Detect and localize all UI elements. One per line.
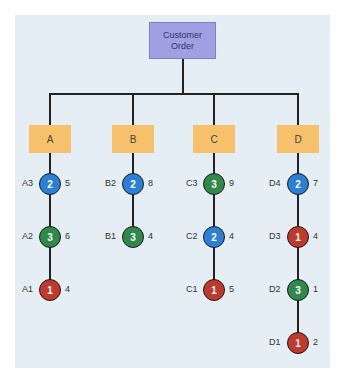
node-circle: 2 [122, 173, 144, 195]
branch-a-connector [49, 93, 51, 127]
branch-b-connector [132, 93, 134, 127]
node-value: 5 [65, 178, 70, 189]
branch-d-connector [297, 93, 299, 127]
node-name: C1 [186, 284, 198, 295]
node-circle: 2 [287, 173, 309, 195]
node-circle: 3 [39, 226, 61, 248]
node-circle: 1 [287, 332, 309, 354]
node-name: B2 [105, 178, 116, 189]
node-name: A1 [22, 284, 33, 295]
node-value: 9 [229, 178, 234, 189]
node-value: 5 [229, 284, 234, 295]
node-value: 1 [313, 284, 318, 295]
node-value: 4 [229, 231, 234, 242]
root-connector [182, 59, 184, 94]
diagram-background [15, 15, 330, 368]
root-label-line1: Customer [163, 30, 202, 41]
box-d: D [277, 125, 319, 153]
node-name: D3 [269, 231, 281, 242]
root-label-line2: Order [163, 41, 202, 52]
node-circle: 3 [287, 279, 309, 301]
node-value: 6 [65, 231, 70, 242]
node-name: C3 [186, 178, 198, 189]
customer-order-box: Customer Order [149, 22, 216, 59]
node-circle: 3 [122, 226, 144, 248]
node-circle: 2 [39, 173, 61, 195]
node-circle: 2 [203, 226, 225, 248]
node-name: D2 [269, 284, 281, 295]
branch-c-connector [213, 93, 215, 127]
node-circle: 3 [203, 173, 225, 195]
box-c: C [193, 125, 235, 153]
node-value: 8 [148, 178, 153, 189]
horizontal-connector [49, 93, 299, 95]
node-circle: 1 [39, 279, 61, 301]
node-name: C2 [186, 231, 198, 242]
node-value: 4 [65, 284, 70, 295]
node-circle: 1 [203, 279, 225, 301]
node-name: A2 [22, 231, 33, 242]
box-a: A [29, 125, 71, 153]
node-name: D1 [269, 337, 281, 348]
chain-a-line [49, 150, 51, 285]
node-circle: 1 [287, 226, 309, 248]
node-name: B1 [105, 231, 116, 242]
node-value: 4 [148, 231, 153, 242]
chain-c-line [213, 150, 215, 285]
node-value: 7 [313, 178, 318, 189]
node-value: 2 [313, 337, 318, 348]
node-name: A3 [22, 178, 33, 189]
node-name: D4 [269, 178, 281, 189]
box-b: B [112, 125, 154, 153]
node-value: 4 [313, 231, 318, 242]
